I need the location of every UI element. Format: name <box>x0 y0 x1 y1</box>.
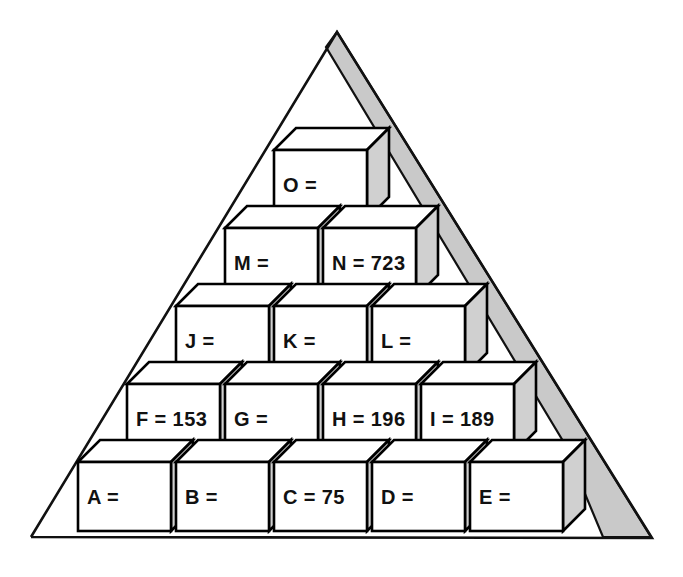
cube-row-bottom-row: A =B =C = 75D =E = <box>78 440 585 531</box>
cube-label-e: E = <box>479 486 511 508</box>
diagram-canvas: O =M =N = 723J =K =L =F = 153G =H = 196I… <box>0 0 683 577</box>
cube-label-d: D = <box>381 486 414 508</box>
cube-label-g: G = <box>234 408 268 430</box>
cube-label-j: J = <box>185 330 215 352</box>
cube-label-l: L = <box>381 330 411 352</box>
cube-label-o: O = <box>283 174 317 196</box>
cube-label-k: K = <box>283 330 316 352</box>
cube-label-m: M = <box>234 252 269 274</box>
cube-e[interactable]: E = <box>470 440 585 531</box>
cube-label-i: I = 189 <box>430 408 495 430</box>
cube-label-a: A = <box>87 486 119 508</box>
cube-label-n: N = 723 <box>332 252 405 274</box>
cube-label-b: B = <box>185 486 218 508</box>
cube-label-c: C = 75 <box>283 486 345 508</box>
pyramid-diagram: O =M =N = 723J =K =L =F = 153G =H = 196I… <box>0 0 683 577</box>
cube-label-h: H = 196 <box>332 408 405 430</box>
cube-label-f: F = 153 <box>136 408 207 430</box>
